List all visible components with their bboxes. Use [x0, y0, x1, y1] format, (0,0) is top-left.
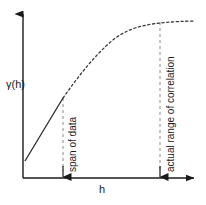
- annotation-actual-range-of-correlation: actual range of correlation: [166, 56, 176, 172]
- annotation-span-of-data: span of data: [68, 117, 78, 172]
- experimental-variogram-solid-line: [25, 98, 63, 161]
- y-axis-label: γ(h): [6, 79, 25, 90]
- variogram-figure: γ(h) h span of data actual range of corr…: [0, 0, 206, 205]
- x-axis-label: h: [99, 184, 105, 195]
